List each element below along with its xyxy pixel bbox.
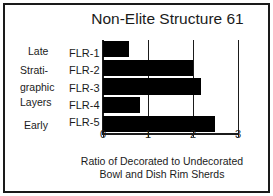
axis-annotation-early: Early (24, 119, 48, 131)
x-tick-label-2: 2 (181, 128, 205, 140)
x-tick-label-1: 1 (136, 128, 160, 140)
category-label-flr-5: FLR-5 (69, 116, 100, 128)
gridline-3 (238, 40, 239, 133)
x-tick-label-3: 3 (226, 128, 250, 140)
category-label-flr-1: FLR-1 (69, 47, 100, 59)
bar-flr-1 (103, 41, 129, 57)
y-axis-label-line2: graphic (20, 81, 54, 93)
x-axis-line (102, 133, 239, 135)
bar-flr-4 (103, 97, 140, 113)
x-axis-caption: Ratio of Decorated to Undecorated Bowl a… (62, 155, 262, 181)
y-axis-label-line3: Layers (20, 96, 52, 108)
bar-flr-3 (103, 78, 201, 94)
x-axis-caption-line1: Ratio of Decorated to Undecorated (62, 155, 262, 168)
chart-title: Non-Elite Structure 61 (70, 10, 265, 28)
category-label-flr-2: FLR-2 (69, 64, 100, 76)
bar-flr-2 (103, 60, 193, 76)
plot-area (103, 40, 238, 133)
category-label-flr-3: FLR-3 (69, 82, 100, 94)
x-axis-caption-line2: Bowl and Dish Rim Sherds (62, 168, 262, 181)
chart-figure: Non-Elite Structure 61 Late Strati- grap… (0, 0, 273, 196)
category-label-flr-4: FLR-4 (69, 99, 100, 111)
y-axis-label-line1: Strati- (20, 64, 48, 76)
x-tick-label-0: 0 (91, 128, 115, 140)
axis-annotation-late: Late (28, 45, 48, 57)
